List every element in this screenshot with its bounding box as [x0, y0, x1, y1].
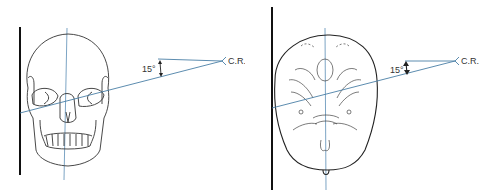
frontal-skull-diagram: 15° C.R.	[0, 0, 245, 195]
ray-source-icon	[222, 57, 226, 65]
posterior-skull-diagram: 15° C.R.	[245, 0, 493, 195]
right-panel: 15° C.R.	[245, 0, 493, 195]
midsagittal-line	[325, 28, 326, 190]
central-ray-label: C.R.	[228, 56, 245, 66]
central-ray-line	[20, 61, 222, 113]
left-panel: 15° C.R.	[0, 0, 245, 195]
skull-outline	[27, 34, 109, 166]
midsagittal-line	[64, 28, 67, 180]
angle-label: 15°	[390, 65, 404, 75]
ray-source-icon	[455, 57, 459, 65]
central-ray-label: C.R.	[461, 56, 479, 66]
reference-horizontal-line	[158, 59, 222, 61]
angle-label: 15°	[142, 64, 156, 74]
central-ray-line	[272, 61, 455, 108]
